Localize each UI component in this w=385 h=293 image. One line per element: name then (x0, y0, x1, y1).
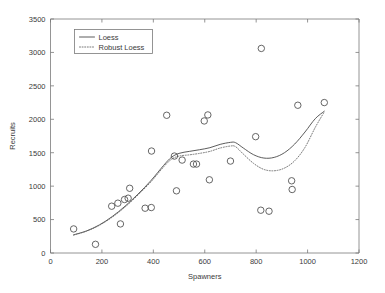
x-axis-title: Spawners (188, 272, 222, 281)
y-tick-label: 500 (33, 215, 46, 224)
x-tick-label: 800 (250, 257, 263, 266)
y-tick-label: 1500 (29, 149, 46, 158)
y-tick-label: 1000 (29, 182, 46, 191)
scatter-plot-svg: 020040060080010001200 050010001500200025… (0, 0, 385, 293)
x-tick-label: 1000 (299, 257, 316, 266)
legend-label: Robust Loess (99, 43, 145, 52)
y-tick-label: 2500 (29, 82, 46, 91)
x-tick-label: 0 (48, 257, 52, 266)
y-tick-label: 2000 (29, 115, 46, 124)
chart-figure: 020040060080010001200 050010001500200025… (0, 0, 385, 293)
y-axis-title: Recruits (8, 122, 17, 150)
y-tick-label: 0 (41, 249, 45, 258)
plot-background (0, 0, 385, 293)
y-tick-label: 3500 (29, 15, 46, 24)
x-tick-label: 600 (198, 257, 211, 266)
y-tick-label: 3000 (29, 48, 46, 57)
x-tick-label: 400 (147, 257, 160, 266)
x-tick-label: 1200 (351, 257, 368, 266)
legend-label: Loess (99, 33, 119, 42)
x-tick-label: 200 (96, 257, 109, 266)
chart-legend[interactable]: LoessRobust Loess (75, 30, 153, 54)
